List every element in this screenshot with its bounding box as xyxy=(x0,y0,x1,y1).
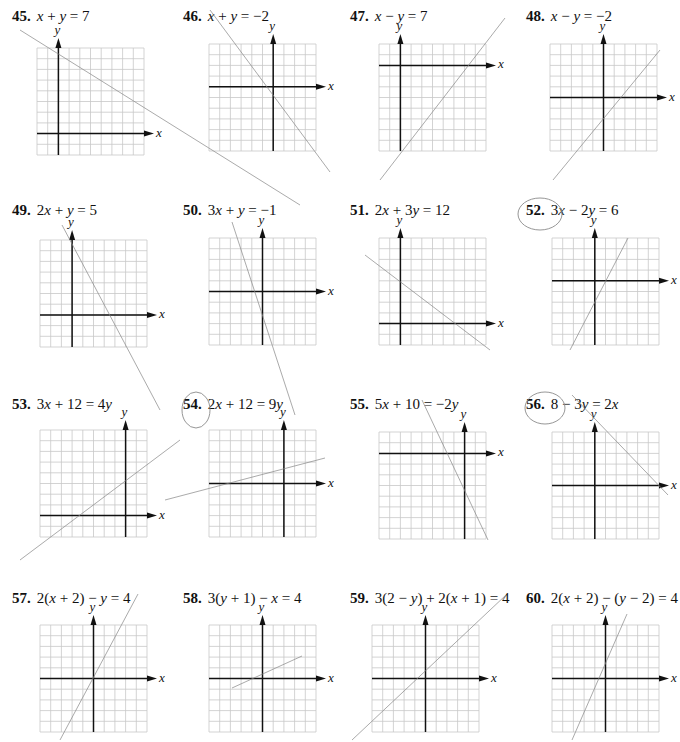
pencil-graph-line xyxy=(365,255,490,350)
pencil-graph-line xyxy=(20,440,180,560)
pencil-graph-line xyxy=(20,30,300,205)
pencil-graph-line xyxy=(380,18,505,180)
pencil-circle-mark xyxy=(525,392,565,424)
pencil-graph-line xyxy=(572,395,668,495)
pencil-graph-line xyxy=(570,238,628,350)
pencil-graph-line xyxy=(232,222,295,415)
pencil-graph-line xyxy=(232,656,302,688)
pencil-graph-line xyxy=(422,400,488,540)
pencil-graph-line xyxy=(352,595,506,740)
pencil-graph-line xyxy=(62,225,160,410)
pencil-graph-line xyxy=(210,10,330,172)
pencil-circle-mark xyxy=(182,392,210,428)
pencil-graph-line xyxy=(60,594,138,740)
pencil-circle-mark xyxy=(518,198,562,230)
pencil-graph-line xyxy=(553,50,660,180)
pencil-graph-line xyxy=(572,614,627,740)
pencil-graph-line xyxy=(165,458,325,500)
